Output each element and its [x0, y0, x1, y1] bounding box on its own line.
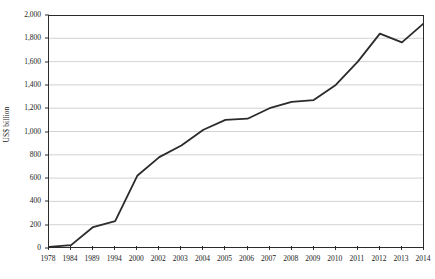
chart-canvas — [49, 15, 424, 248]
x-axis-tick-label: 2008 — [283, 255, 298, 263]
y-axis-tick-label: 1,800 — [24, 35, 41, 43]
x-axis-tick-mark — [291, 246, 292, 250]
y-axis-tick-label: 1,600 — [24, 58, 41, 66]
x-axis-tick-label: 2007 — [261, 255, 276, 263]
y-axis-tick-label: 1,200 — [24, 104, 41, 112]
x-axis-tick-label: 1989 — [85, 255, 100, 263]
x-axis-tick-label: 2003 — [173, 255, 188, 263]
y-axis-tick-label: 0 — [37, 244, 41, 252]
y-axis-tick-label: 1,400 — [24, 81, 41, 89]
x-axis-tick-label: 2012 — [371, 255, 386, 263]
x-axis-tick-labels: 1978198419891994200020022003200420052006… — [48, 250, 423, 270]
x-axis-tick-mark — [48, 246, 49, 250]
x-axis-tick-mark — [423, 246, 424, 250]
x-axis-tick-label: 2011 — [349, 255, 364, 263]
y-axis-tick-labels: 02004006008001,0001,2001,4001,6001,8002,… — [12, 15, 45, 248]
x-axis-tick-label: 1984 — [63, 255, 78, 263]
x-axis-tick-mark — [70, 246, 71, 250]
data-line-series-1 — [49, 23, 424, 247]
x-axis-tick-mark — [357, 246, 358, 250]
x-axis-tick-mark — [313, 246, 314, 250]
x-axis-tick-mark — [247, 246, 248, 250]
x-axis-tick-mark — [92, 246, 93, 250]
x-axis-tick-label: 2004 — [195, 255, 210, 263]
x-axis-tick-label: 2014 — [416, 255, 431, 263]
x-axis-tick-label: 2009 — [305, 255, 320, 263]
x-axis-tick-label: 2002 — [151, 255, 166, 263]
x-axis-tick-mark — [180, 246, 181, 250]
plot-area — [48, 15, 423, 248]
x-axis-tick-mark — [224, 246, 225, 250]
y-axis-tick-label: 600 — [30, 174, 41, 182]
x-axis-tick-label: 1978 — [41, 255, 56, 263]
x-axis-tick-mark — [401, 246, 402, 250]
x-axis-tick-mark — [335, 246, 336, 250]
x-axis-tick-label: 2000 — [129, 255, 144, 263]
y-axis-tick-label: 800 — [30, 151, 41, 159]
y-axis-tick-label: 200 — [30, 221, 41, 229]
y-axis-tick-label: 1,000 — [24, 128, 41, 136]
x-axis-tick-label: 2010 — [327, 255, 342, 263]
x-axis-tick-mark — [379, 246, 380, 250]
x-axis-tick-mark — [114, 246, 115, 250]
x-axis-tick-label: 2006 — [239, 255, 254, 263]
x-axis-tick-label: 2005 — [217, 255, 232, 263]
x-axis-tick-mark — [158, 246, 159, 250]
x-axis-tick-mark — [136, 246, 137, 250]
x-axis-tick-label: 1994 — [107, 255, 122, 263]
y-axis-tick-label: 400 — [30, 198, 41, 206]
y-axis-title-text: US$ billion — [3, 106, 12, 142]
x-axis-tick-mark — [269, 246, 270, 250]
x-axis-tick-mark — [202, 246, 203, 250]
x-axis-tick-label: 2013 — [393, 255, 408, 263]
chart-figure: US$ billion 02004006008001,0001,2001,400… — [0, 0, 435, 279]
y-axis-tick-label: 2,000 — [24, 11, 41, 19]
